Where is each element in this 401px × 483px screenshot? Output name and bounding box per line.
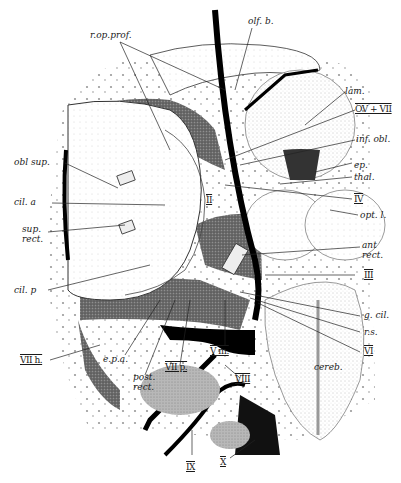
label-obl-sup: obl sup. [14, 157, 50, 167]
label-cil-p: cil. p [14, 285, 36, 295]
label-ant-rect: ant rect. [362, 240, 383, 260]
label-x: X [220, 457, 226, 467]
label-iv: IV [354, 194, 363, 204]
label-cil-a: cil. a [14, 197, 36, 207]
label-vi: VI [364, 346, 373, 356]
label-viii: VIII [235, 374, 250, 384]
label-olf-b: olf. b. [248, 16, 274, 26]
label-e-p-a: e.p.a. [103, 354, 128, 364]
label-v-m: V m. [210, 346, 229, 356]
label-vii-h: VII h. [20, 355, 42, 365]
anatomical-illustration [0, 0, 401, 483]
label-sup-rect: sup. rect. [22, 224, 43, 244]
label-cereb: cereb. [314, 362, 343, 372]
label-post-rect: post. rect. [133, 372, 155, 392]
label-opt-l: opt. l. [360, 210, 386, 220]
label-g-cil: g. cil. [364, 310, 389, 320]
label-r-op-prof: r.op.prof. [90, 30, 132, 40]
label-iii: III [364, 270, 373, 280]
label-inf-obl: inf. obl. [356, 134, 390, 144]
label-ov-vii: OV + VII [355, 104, 392, 114]
label-lam: lam. [345, 86, 365, 96]
label-vii-p: VII p. [165, 362, 187, 372]
label-ii: II [206, 195, 212, 205]
lower-ganglion [210, 421, 250, 449]
label-thal: thal. [354, 172, 375, 182]
label-ep: ep. [354, 160, 368, 170]
label-ix: IX [186, 462, 195, 472]
label-r-s: r.s. [364, 327, 378, 337]
